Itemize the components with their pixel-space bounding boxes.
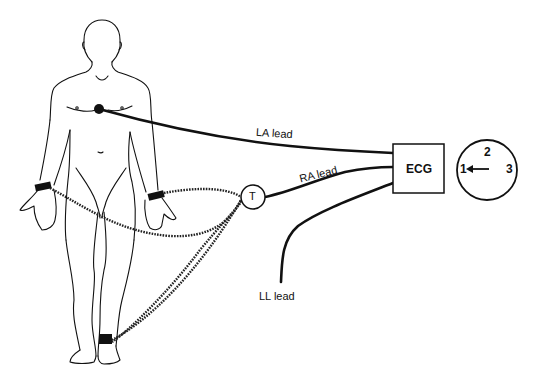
- left-wrist-band: [148, 190, 165, 201]
- ecg-device-label: ECG: [406, 162, 432, 176]
- la-lead-label: LA lead: [256, 126, 293, 141]
- ecg-diagram: LA lead RA lead LL lead T ECG 1 2 3: [0, 0, 534, 378]
- human-figure: [20, 20, 176, 364]
- dial-number-2: 2: [484, 145, 491, 159]
- ll-lead-label: LL lead: [259, 290, 295, 302]
- la-lead-wire: [99, 109, 393, 153]
- t-junction-label: T: [249, 190, 256, 202]
- leg-cable-1: [112, 200, 241, 340]
- left-arm-cable: [164, 189, 241, 197]
- ll-lead-wire: [281, 183, 393, 282]
- right-wrist-band: [35, 181, 52, 191]
- ankle-band: [99, 334, 112, 344]
- dial-number-1: 1: [460, 162, 467, 176]
- dial-number-3: 3: [506, 162, 513, 176]
